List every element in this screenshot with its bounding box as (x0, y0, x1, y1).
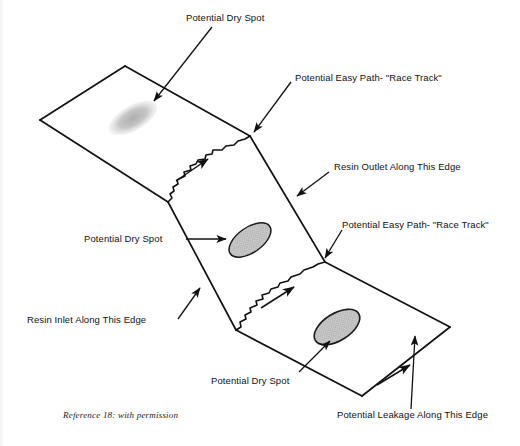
label-resin-outlet: Resin Outlet Along This Edge (334, 161, 461, 173)
label-race-track-middle: Potential Easy Path- "Race Track" (342, 219, 489, 231)
leader-lines (154, 27, 415, 409)
bottom-panel-lower-right-edge (362, 327, 450, 396)
leader-race-track-mid (325, 230, 342, 258)
figure-canvas: Potential Dry Spot Potential Easy Path- … (0, 0, 520, 446)
figure-credit: Reference 18: with permission (63, 409, 178, 421)
label-dry-spot-top: Potential Dry Spot (186, 12, 264, 24)
middle-panel-left-edge (168, 202, 236, 330)
flow-arrow-bottom (377, 365, 410, 385)
flow-arrows (176, 159, 410, 385)
label-dry-spot-bottom: Potential Dry Spot (211, 375, 289, 387)
leader-race-track-top (254, 82, 291, 132)
leader-dry-spot-bottom (299, 341, 330, 372)
dry-spot-middle (223, 216, 277, 264)
label-leakage: Potential Leakage Along This Edge (337, 409, 488, 421)
label-resin-inlet: Resin Inlet Along This Edge (27, 314, 146, 326)
label-race-track-top: Potential Easy Path- "Race Track" (295, 72, 442, 84)
leader-resin-outlet (297, 172, 329, 196)
leader-dry-spot-top (154, 27, 212, 101)
top-panel-lower-left-edge (40, 120, 168, 202)
flow-arrow-top (176, 159, 208, 181)
leader-resin-inlet (178, 288, 200, 319)
dry-spot-top (103, 94, 162, 143)
flow-arrow-middle (261, 287, 294, 308)
top-panel (40, 66, 250, 202)
leader-leakage (411, 336, 415, 409)
top-panel-upper-left-edge (40, 66, 125, 120)
dry-spot-bottom (308, 302, 366, 352)
race-track-top-fold (168, 136, 250, 202)
label-dry-spot-middle: Potential Dry Spot (84, 233, 162, 245)
